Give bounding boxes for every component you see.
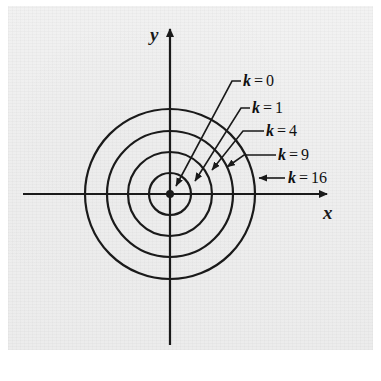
label-k-16-num: 16 xyxy=(311,169,327,186)
label-k-9-num: 9 xyxy=(301,146,309,163)
label-k-1-num: 1 xyxy=(275,99,283,116)
label-k-4-num: 4 xyxy=(289,122,297,139)
y-axis-label: y xyxy=(150,25,158,44)
label-k-1-var: k xyxy=(252,99,260,116)
label-k-4-eq: = xyxy=(274,122,289,139)
label-k-4-var: k xyxy=(266,122,274,139)
label-k-9: k=9 xyxy=(278,147,309,163)
leader-k-9 xyxy=(227,155,276,167)
label-k-9-eq: = xyxy=(286,146,301,163)
diagram-canvas xyxy=(0,0,381,381)
label-k-16-eq: = xyxy=(296,169,311,186)
label-k-16: k=16 xyxy=(288,170,327,186)
label-k-1-eq: = xyxy=(260,99,275,116)
x-axis-label: x xyxy=(323,203,333,222)
label-k-0-eq: = xyxy=(251,72,266,89)
label-k-0: k=0 xyxy=(243,73,274,89)
label-k-1: k=1 xyxy=(252,100,283,116)
label-k-4: k=4 xyxy=(266,123,297,139)
label-k-0-var: k xyxy=(243,72,251,89)
label-k-0-num: 0 xyxy=(266,72,274,89)
origin-dot xyxy=(166,190,174,198)
label-k-16-var: k xyxy=(288,169,296,186)
figure-container: y x k=0 k=1 k=4 k=9 k=16 xyxy=(0,0,381,381)
label-k-9-var: k xyxy=(278,146,286,163)
axes-group xyxy=(23,29,327,345)
leader-k-4 xyxy=(212,131,264,170)
